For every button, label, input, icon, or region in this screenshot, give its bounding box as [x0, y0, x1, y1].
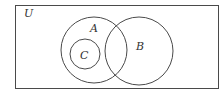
- set-a-label: A: [89, 22, 98, 35]
- set-b-label: B: [135, 40, 144, 53]
- venn-diagram: U A B C: [0, 0, 224, 92]
- universe-rectangle: [16, 6, 219, 89]
- set-c-label: C: [80, 49, 89, 62]
- universe-label: U: [24, 7, 34, 20]
